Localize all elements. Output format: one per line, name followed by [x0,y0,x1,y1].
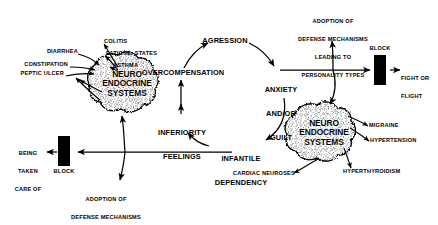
label-asthma: ASTHMA [113,62,138,68]
arrow-to-agression [184,43,208,68]
node-overcompensation: OVERCOMPENSATION [140,69,226,77]
infantile-line2: DEPENDENCY [210,179,272,187]
adoption-bottom-line2: DEFENSE MECHANISMS [52,214,160,220]
node-infantile-dependency: INFANTILE DEPENDENCY [210,139,272,203]
node-agression: AGRESSION [196,37,254,45]
arrow-branch-down-left [120,152,125,180]
node-adoption-top: ADOPTION OF DEFENSE MECHANISMS LEADING T… [279,6,387,90]
label-hypertension: HYPERTENSION [370,137,417,143]
being-line3: CARE OF [8,186,48,192]
label-fatigue-states: FATIGUE STATES [106,50,157,56]
neuro-left-line3: SYSTEMS [96,89,158,98]
adoption-bottom-line1: ADOPTION OF [52,196,160,202]
inferiority-line1: INFERIORITY [152,129,212,137]
infantile-line1: INFANTILE [210,155,272,163]
label-constipation: CONSTIPATION [6,61,68,67]
label-diarrhea: DIARRHEA [26,48,78,54]
node-fight-or-flight: FIGHT OR FLIGHT [401,63,438,111]
psychosomatic-cycle-diagram: NEURO ENDOCRINE SYSTEMS NEURO ENDOCRINE … [0,0,438,225]
label-hyperthyroidism: HYPERTHYROIDISM [343,168,400,174]
anxiety-line2: AND/OR [254,110,308,118]
arrow-cardiac-neuroses [294,159,318,173]
fight-line1: FIGHT OR [401,75,438,81]
being-line1: BEING [8,150,48,156]
being-line2: TAKEN [8,168,48,174]
adoption-top-line2: DEFENSE MECHANISMS [279,36,387,42]
adoption-top-line3: LEADING TO [279,54,387,60]
node-inferiority-feelings: INFERIORITY FEELINGS [152,113,212,177]
adoption-top-line1: ADOPTION OF [279,18,387,24]
node-adoption-bottom: ADOPTION OF DEFENSE MECHANISMS LEADING T… [52,184,160,225]
label-colitis: COLITIS [104,38,127,44]
arrow-branch-up-left [122,116,125,152]
label-migraine: MIGRAINE [369,122,399,128]
block-bar-left [58,136,70,166]
label-block-left: BLOCK [48,168,80,174]
arrow-to-anxiety [249,43,274,66]
adoption-top-line4: PERSONALITY TYPES [279,72,387,78]
node-being-taken-care-of: BEING TAKEN CARE OF [8,138,48,204]
inferiority-line2: FEELINGS [152,153,212,161]
fight-line2: FLIGHT [401,93,438,99]
label-peptic-ulcer: PEPTIC ULCER [2,70,64,76]
